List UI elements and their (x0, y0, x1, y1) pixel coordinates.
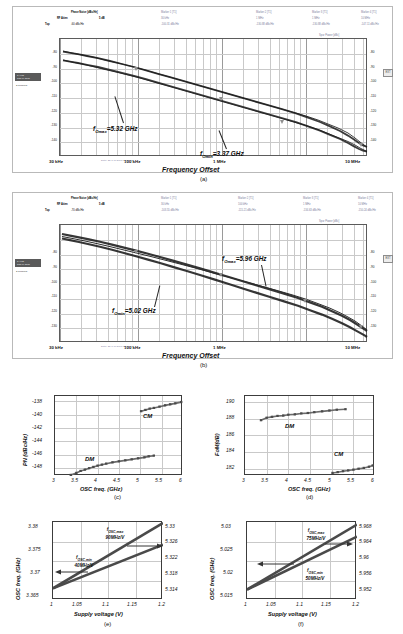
panel-b-ytick-right-5: -130 (370, 324, 376, 328)
panel-d-ytick-0: 190 (226, 398, 234, 404)
panel-a: Phase Noise [dBc/Hz] RF Atten 5 dB Top -… (12, 6, 391, 182)
panel-b-marker-4-value: -150.24 dBc/Hz (358, 209, 376, 212)
panel-a-ytick-right-6: -140 (370, 138, 376, 142)
panel-e-ytick-3: 3.38 (28, 523, 38, 529)
panel-b-marker-triangle-4 (359, 325, 363, 329)
panel-a-marker-4-name: Marker 4 [T1] (361, 11, 376, 14)
panel-a-ytick-right-1: -90 (370, 65, 374, 69)
panel-b-xtick-2: 1 MHz (213, 345, 226, 350)
panel-d-xtick-4: 5 (328, 477, 331, 483)
panel-a-ytick-3: -110 (41, 94, 57, 98)
panel-d-yaxis-title: FoM(dB) (214, 433, 220, 456)
panel-c: PN (dBc/Hz) -138 -140 -142 -144 -146 -14… (18, 378, 198, 500)
panel-b-ytick-right-3: -110 (370, 294, 376, 298)
panel-b-ytick-1: -90 (41, 265, 57, 269)
panel-f-ytick-right-2: 5.96 (359, 554, 369, 560)
panel-d-series-label-cm: CM (334, 451, 343, 457)
panel-b-traces (60, 225, 368, 343)
instrument-screen-a: Phase Noise [dBc/Hz] RF Atten 5 dB Top -… (12, 6, 393, 173)
panel-b-annotation-fomax: fOmax=5.96 GHz (222, 255, 267, 264)
panel-a-annotation-fomin: fOmin=3.37 GHz (200, 150, 244, 159)
panel-f-ytick-right-3: 5.964 (359, 538, 372, 544)
panel-c-ytick-5: -148 (32, 463, 42, 469)
panel-a-top-label: Top (45, 23, 50, 26)
panel-b-marker-triangle-1 (134, 250, 138, 254)
panel-b-header-title: Phase Noise [dBc/Hz] (71, 197, 98, 200)
panel-a-caption: (a) (200, 176, 207, 182)
panel-f-ytick-right-1: 5.956 (359, 570, 372, 576)
panel-f-ytick-right-4: 5.968 (359, 523, 372, 529)
panel-e-ytick-right-3: 5.326 (165, 538, 178, 544)
panel-b-trace-tag-2: 2 CLRWR (16, 270, 27, 273)
panel-a-marker-3-name: Marker 3 [T1] (312, 11, 327, 14)
panel-e: OSC freq. (GHz) 3.38 3.375 3.37 3.365 fO… (12, 505, 202, 633)
panel-c-yaxis-title: PN (dBc/Hz) (22, 434, 28, 466)
panel-a-trace-tag-1: 1 AVG 100 % CLR (15, 73, 41, 81)
panel-f-xtick-2: 1.1 (296, 601, 303, 607)
panel-a-marker-triangle-1 (134, 67, 138, 71)
panel-a-marker-triangle-2 (219, 97, 223, 101)
panel-b-marker-3-name: Marker 3 [T1] (303, 197, 318, 200)
panel-c-plot-area: CM DM (54, 395, 182, 475)
panel-e-xtick-2: 1.1 (102, 601, 109, 607)
panel-b-trace-tag-1-line2: 100 % CLR (17, 263, 30, 266)
panel-e-ytick-right-2: 5.322 (165, 554, 178, 560)
panel-a-ytick-6: -140 (41, 138, 57, 142)
panel-c-xtick-0: 3 (52, 477, 55, 483)
panel-b-ytick-2: -100 (41, 280, 57, 284)
panel-b-caption: (b) (200, 362, 207, 368)
panel-f-xtick-3: 1.15 (321, 601, 331, 607)
panel-f-ytick-right-0: 5.952 (359, 586, 372, 592)
panel-a-xtick-3: 10 MHz (345, 159, 360, 164)
panel-b-ytick-right-0: -80 (370, 250, 374, 254)
panel-e-ytick-right-0: 5.314 (165, 586, 178, 592)
panel-f-ytick-3: 5.03 (221, 523, 231, 529)
panel-c-xtick-1: 3.5 (71, 477, 78, 483)
panel-a-traces (60, 39, 368, 157)
panel-d-caption: (d) (306, 494, 313, 500)
panel-c-ytick-4: -146 (32, 450, 42, 456)
panel-d-xtick-6: 6 (371, 477, 374, 483)
panel-b-marker-4-freq: 10 MHz (358, 203, 367, 206)
panel-f-annotation-min: fOSC,min50MHz/V (294, 568, 336, 582)
panel-a-ytick-right-2: -100 (370, 79, 376, 83)
panel-b-plot-area (59, 224, 367, 342)
panel-d: FoM(dB) 190 188 186 184 182 (210, 378, 395, 500)
panel-c-series-label-dm: DM (85, 456, 94, 462)
panel-a-marker-4-freq: 10 MHz (361, 17, 370, 20)
panel-a-ytick-right-0: -80 (370, 50, 374, 54)
panel-a-marker-4-value: -147.11 dBc/Hz (361, 23, 379, 26)
panel-e-ytick-2: 3.375 (28, 546, 41, 552)
panel-e-annotation-max: fOSC,max90MHz/V (93, 527, 137, 541)
panel-f-plot-area: fOSC,max75MHz/V fOSC,min50MHz/V (246, 521, 356, 599)
panel-a-rf-atten-value: 5 dB (99, 17, 105, 20)
panel-c-ytick-1: -140 (32, 411, 42, 417)
panel-d-xtick-3: 4.5 (304, 477, 311, 483)
panel-c-ytick-3: -144 (32, 437, 42, 443)
panel-b-ytick-4: -120 (41, 309, 57, 313)
panel-b-marker-1-name: Marker 1 [T1] (161, 197, 176, 200)
panel-b-marker-2-name: Marker 2 [T1] (238, 197, 253, 200)
panel-e-ytick-1: 3.37 (30, 569, 40, 575)
panel-f-xtick-1: 1.05 (266, 601, 276, 607)
panel-d-ytick-2: 186 (226, 431, 234, 437)
panel-b-marker-3-freq: 1 MHz (303, 203, 311, 206)
panel-f: OSC freq. (GHz) 5.03 5.025 5.02 5.015 fO… (206, 505, 396, 633)
panel-a-marker-1-value: -100.31 dBc/Hz (161, 23, 179, 26)
panel-b-trace-tag-1: 1 AVG 100 % CLR (15, 259, 41, 267)
panel-c-xaxis-title: OSC freq. (GHz) (80, 486, 122, 492)
panel-c-xtick-4: 5 (136, 477, 139, 483)
panel-c-series (55, 396, 183, 476)
panel-b-rf-atten-label: RF Atten (57, 203, 68, 206)
panel-a-trace-tag-1-line2: 100 % CLR (17, 77, 30, 80)
panel-c-ytick-2: -142 (32, 424, 42, 430)
panel-a-marker-1-freq: 30 kHz (161, 17, 169, 20)
panel-d-plot-area: DM CM (244, 395, 374, 475)
panel-f-ytick-0: 5.015 (220, 592, 233, 598)
panel-a-ytick-right-4: -120 (370, 109, 376, 113)
panel-e-annotation-min: fOSC,min40MHz/V (64, 555, 104, 569)
panel-c-series-label-cm: CM (143, 413, 152, 419)
panel-b-xtick-0: 30 kHz (49, 345, 63, 350)
panel-b: Phase Noise [dBc/Hz] RF Atten 5 dB Top -… (12, 192, 391, 368)
panel-a-marker-2-value: -130.88 dBc/Hz (256, 23, 274, 26)
